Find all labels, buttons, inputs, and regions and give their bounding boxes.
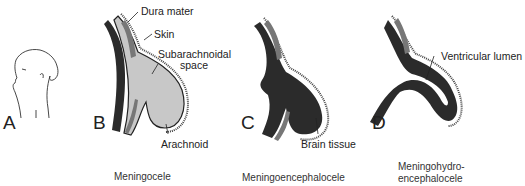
panel-letter-a: A [3, 113, 16, 133]
label-ventricular-lumen: Ventricular lumen [441, 50, 522, 62]
caption-meningocele: Meningocele [114, 170, 171, 183]
panel-letter-c: C [241, 113, 255, 133]
label-dura-mater: Dura mater [141, 5, 194, 17]
label-subarachnoidal-space-line2: space [180, 59, 208, 71]
caption-meningoencephalocele: Meningoencephalocele [242, 171, 345, 184]
label-skin: Skin [154, 28, 174, 40]
meningoencephalocele-illustration [254, 18, 328, 141]
caption-meningohydroencephalocele-line2: encephalocele [398, 172, 463, 185]
panel-letter-d: D [372, 113, 386, 133]
meningocele-illustration [104, 14, 188, 135]
infant-profile-illustration [13, 49, 58, 118]
panel-letter-b: B [93, 113, 106, 133]
label-brain-tissue: Brain tissue [301, 138, 356, 150]
meningohydroencephalocele-illustration [370, 16, 462, 126]
diagram-canvas [0, 0, 525, 186]
label-arachnoid: Arachnoid [161, 138, 208, 150]
